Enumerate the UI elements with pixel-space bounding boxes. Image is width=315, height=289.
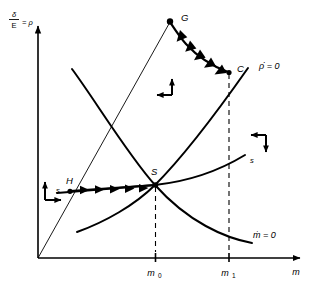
label-point-G: G (181, 12, 188, 23)
trajectory-arrowhead (110, 185, 120, 194)
label-point-S: S (151, 166, 158, 177)
trajectory-arrowhead (204, 58, 216, 68)
label-rho-dot-zero-text: ρ̇ = 0 (258, 61, 279, 71)
phase-diagram-canvas: δ E = ρ m m 0 m 1 ρ̇ = 0 ṁ = 0 G C S H s (0, 0, 315, 289)
trajectory-C-to-G (167, 18, 232, 75)
point-S-marker (153, 182, 159, 188)
label-rho-dot-zero: ρ̇ = 0 (258, 61, 279, 71)
phase-diagram-figure: δ E = ρ m m 0 m 1 ρ̇ = 0 ṁ = 0 G C S H s (0, 0, 315, 289)
x-tick-m0-sub: 0 (158, 272, 162, 279)
y-axis-label-denominator: E (11, 21, 16, 30)
x-tick-m0-base: m (147, 268, 155, 278)
trajectory-arrowhead (80, 186, 90, 195)
label-m-dot-zero-text: ṁ = 0 (253, 230, 276, 240)
point-H-marker (67, 189, 72, 194)
quadrant-arrow-up-left (157, 79, 172, 95)
trajectory-arrowhead (95, 185, 105, 194)
point-G-marker (167, 18, 173, 24)
x-tick-m1-sub: 1 (232, 272, 236, 279)
trajectory-C-to-G-path (170, 22, 228, 72)
y-axis-label: δ E = ρ (9, 10, 33, 30)
ray-through-G (38, 22, 170, 258)
x-tick-label-m0: m 0 (147, 268, 162, 279)
rho-dot-zero-curve (77, 68, 248, 232)
trajectory-H-to-S (67, 184, 156, 194)
rho-dot-zero-nullcline (77, 68, 248, 232)
label-saddle-path-right: s (250, 156, 254, 165)
x-axis-label: m (292, 267, 300, 277)
label-point-H: H (66, 175, 73, 186)
x-tick-label-m1: m 1 (221, 268, 236, 279)
quadrant-arrow-left-down (251, 135, 266, 152)
label-m-dot-zero: ṁ = 0 (253, 230, 276, 240)
y-axis-label-numerator: δ (12, 10, 17, 19)
x-tick-m1-base: m (221, 268, 229, 278)
label-point-C: C (237, 63, 244, 74)
label-saddle-path-left: s (56, 186, 60, 195)
origin-ray (38, 22, 170, 258)
y-axis-label-tail: = ρ (22, 18, 33, 27)
